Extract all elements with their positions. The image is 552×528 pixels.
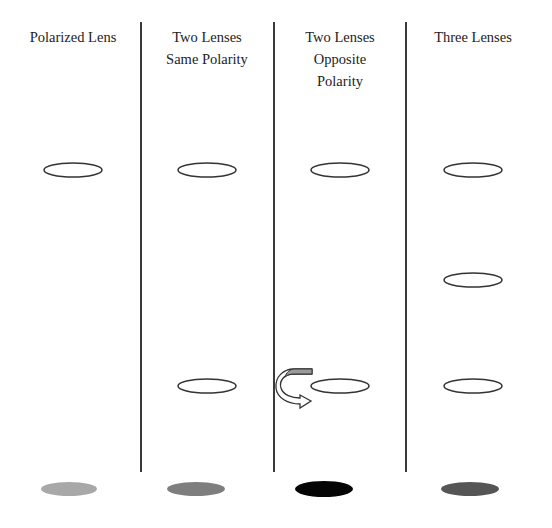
result-light-ellipse — [441, 482, 499, 496]
lens-outline — [44, 163, 102, 177]
polarization-diagram: Polarized Lens Two Lenses Same Polarity … — [0, 0, 552, 528]
result-light-ellipse — [295, 481, 353, 497]
lens-outline — [311, 379, 369, 393]
result-light-ellipse — [41, 482, 97, 496]
lens-outline — [444, 379, 502, 393]
lens-outline — [178, 163, 236, 177]
result-light-ellipse — [167, 482, 225, 496]
lens-outline — [178, 379, 236, 393]
lens-outline — [311, 163, 369, 177]
rotation-arrow-icon — [276, 369, 312, 408]
lens-graphics — [0, 0, 552, 528]
lens-outline — [444, 273, 502, 287]
lens-outline — [444, 163, 502, 177]
